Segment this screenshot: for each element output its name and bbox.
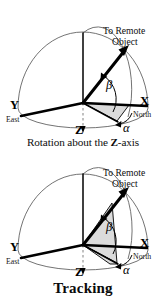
axis-label-y: Y bbox=[10, 98, 19, 112]
angle-label-beta: β bbox=[105, 78, 113, 92]
figure-page: To Remote Object X North Y East Z β α Ro… bbox=[0, 0, 166, 303]
callout-line1: To Remote bbox=[103, 167, 145, 178]
rotation-about-new-y-svg: To Remote Object X North Y East Z β α bbox=[0, 152, 166, 277]
rotation-about-z-svg: To Remote Object X North Y East Z β α bbox=[0, 0, 166, 152]
caption-bold-axis: Z bbox=[110, 136, 117, 148]
axis-sublabel-east: East bbox=[6, 115, 20, 124]
angle-label-alpha: α bbox=[123, 263, 130, 277]
axis-sublabel-north: North bbox=[133, 110, 151, 119]
axis-label-x: X bbox=[140, 94, 149, 108]
callout-line2: Object bbox=[112, 178, 138, 189]
axis-sublabel-north: North bbox=[133, 252, 151, 261]
caption-suffix: -axis bbox=[118, 136, 139, 148]
axis-label-y: Y bbox=[10, 240, 19, 254]
callout-line2: Object bbox=[112, 36, 138, 47]
figure-title: Tracking bbox=[0, 280, 166, 297]
y-axis-east bbox=[21, 103, 83, 116]
angle-label-alpha: α bbox=[123, 121, 130, 135]
axis-label-x: X bbox=[140, 236, 149, 250]
callout-line1: To Remote bbox=[103, 25, 145, 36]
diagram-rotation-about-z: To Remote Object X North Y East Z β α Ro… bbox=[0, 0, 166, 152]
axis-label-z: Z bbox=[75, 123, 83, 137]
diagram-rotation-about-new-y: To Remote Object X North Y East Z β α Ro… bbox=[0, 152, 166, 277]
y-axis-east bbox=[21, 245, 83, 258]
axis-label-z: Z bbox=[75, 265, 83, 277]
caption-rotation-about-z: Rotation about the Z-axis bbox=[0, 136, 166, 148]
axis-sublabel-east: East bbox=[6, 257, 20, 266]
angle-label-beta: β bbox=[105, 220, 113, 234]
caption-prefix: Rotation about the bbox=[27, 136, 111, 148]
